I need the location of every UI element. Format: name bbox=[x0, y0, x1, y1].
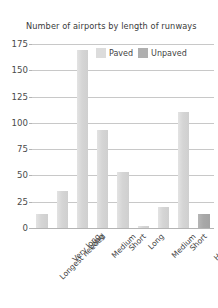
x-axis-labels: Longest neededVery longLongMediumShortLo… bbox=[32, 230, 214, 306]
legend-swatch-icon bbox=[96, 48, 106, 58]
legend-item-unpaved: Unpaved bbox=[138, 48, 187, 58]
y-tick-label-150: 150 bbox=[12, 65, 28, 75]
x-label-slot: Longest needed bbox=[32, 230, 52, 306]
chart-title: Number of airports by length of runways bbox=[26, 21, 216, 31]
gridline-0 bbox=[32, 228, 214, 229]
y-tick-mark-0 bbox=[29, 228, 32, 229]
x-label-slot: Medium bbox=[93, 230, 113, 306]
legend-item-paved: Paved bbox=[96, 48, 133, 58]
y-tick-label-50: 50 bbox=[17, 170, 28, 180]
y-tick-label-175: 175 bbox=[12, 39, 28, 49]
bar-chart: Number of airports by length of runways … bbox=[0, 0, 218, 308]
x-label-slot: Medium bbox=[153, 230, 173, 306]
bar bbox=[198, 214, 209, 228]
x-label-slot: Heliports bbox=[194, 230, 214, 306]
plot-area: 0255075100125150175 bbox=[32, 44, 214, 228]
bar bbox=[36, 214, 47, 228]
bar bbox=[138, 226, 149, 228]
bar bbox=[178, 112, 189, 228]
legend-label: Unpaved bbox=[151, 49, 187, 58]
legend-swatch-icon bbox=[138, 48, 148, 58]
bar bbox=[97, 130, 108, 228]
bar bbox=[158, 207, 169, 228]
legend-label: Paved bbox=[109, 49, 133, 58]
y-tick-label-25: 25 bbox=[17, 197, 28, 207]
x-label-slot: Short bbox=[174, 230, 194, 306]
bar bbox=[77, 50, 88, 228]
y-tick-label-0: 0 bbox=[23, 223, 28, 233]
bar-series-group bbox=[32, 44, 214, 228]
x-label-slot: Short bbox=[113, 230, 133, 306]
y-tick-label-125: 125 bbox=[12, 92, 28, 102]
chart-legend: PavedUnpaved bbox=[96, 48, 187, 58]
bar bbox=[57, 191, 68, 228]
x-label-slot: Very long bbox=[52, 230, 72, 306]
y-tick-label-75: 75 bbox=[17, 144, 28, 154]
x-label-slot: Long bbox=[72, 230, 92, 306]
bar bbox=[117, 172, 128, 228]
y-tick-label-100: 100 bbox=[12, 118, 28, 128]
x-label-slot: Long bbox=[133, 230, 153, 306]
x-axis-label: Heliports bbox=[212, 232, 218, 262]
